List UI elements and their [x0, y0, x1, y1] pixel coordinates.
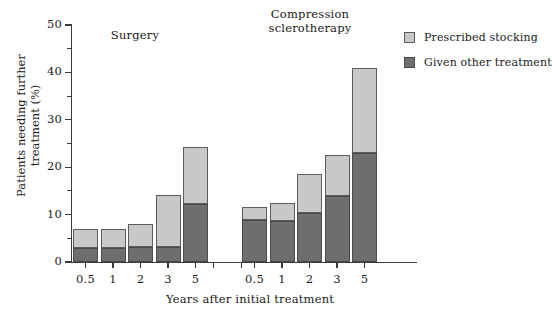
bar-segment-given-other-treatment — [352, 153, 377, 262]
legend-swatch-icon-light — [404, 32, 415, 43]
bar-segment-prescribed-stocking — [101, 229, 126, 248]
x-axis-title: Years after initial treatment — [120, 292, 380, 306]
y-axis-title: Patients needing further treatment (%) — [15, 36, 42, 216]
bar-compression-3y — [325, 155, 350, 262]
legend-label-given-other-treatment: Given other treatment — [424, 56, 552, 69]
x-tick — [241, 262, 242, 268]
bar-segment-prescribed-stocking — [183, 147, 208, 204]
x-tick — [167, 262, 168, 268]
legend-label-prescribed-stocking: Prescribed stocking — [424, 31, 538, 44]
bar-segment-prescribed-stocking — [270, 203, 295, 221]
y-tick-major — [65, 72, 72, 73]
bar-segment-given-other-treatment — [73, 248, 98, 262]
bar-segment-prescribed-stocking — [128, 224, 153, 247]
x-tick — [112, 262, 113, 268]
x-tick-label: 2 — [306, 272, 314, 286]
legend-item-given-other-treatment: Given other treatment — [404, 56, 552, 69]
bar-segment-given-other-treatment — [183, 204, 208, 262]
x-axis-line — [71, 262, 417, 263]
x-tick — [85, 262, 86, 268]
chart-legend: Prescribed stocking Given other treatmen… — [404, 31, 552, 81]
bar-segment-prescribed-stocking — [297, 174, 322, 213]
x-tick-label: 2 — [137, 272, 145, 286]
x-tick-label: 0.5 — [76, 272, 95, 286]
group-caption-surgery: Surgery — [75, 29, 195, 43]
bar-segment-prescribed-stocking — [352, 68, 377, 153]
x-tick — [281, 262, 282, 268]
bar-segment-prescribed-stocking — [156, 195, 181, 247]
bar-segment-prescribed-stocking — [73, 229, 98, 248]
x-tick — [364, 262, 365, 268]
x-tick-label: 5 — [192, 272, 200, 286]
bar-segment-given-other-treatment — [297, 213, 322, 262]
x-tick-label: 1 — [278, 272, 286, 286]
y-tick-major — [65, 261, 72, 262]
x-tick-label: 1 — [109, 272, 117, 286]
x-tick — [213, 262, 214, 268]
bar-surgery-0.5y — [73, 229, 98, 262]
bar-surgery-3y — [156, 195, 181, 262]
y-tick-label: 0 — [22, 256, 62, 268]
y-tick-major — [65, 24, 72, 25]
y-tick-minor — [67, 48, 72, 49]
y-tick-major — [65, 214, 72, 215]
bar-segment-given-other-treatment — [325, 196, 350, 262]
y-tick-major — [65, 167, 72, 168]
legend-swatch-icon-dark — [404, 57, 415, 68]
bar-surgery-1y — [101, 229, 126, 262]
bar-segment-given-other-treatment — [101, 248, 126, 262]
x-tick-label: 3 — [164, 272, 172, 286]
x-tick — [309, 262, 310, 268]
bar-surgery-2y — [128, 224, 153, 262]
bar-segment-prescribed-stocking — [325, 155, 350, 196]
x-tick — [195, 262, 196, 268]
x-tick-label: 0.5 — [245, 272, 264, 286]
bar-compression-2y — [297, 174, 322, 262]
y-tick-major — [65, 119, 72, 120]
x-tick-label: 5 — [361, 272, 369, 286]
x-tick — [140, 262, 141, 268]
bar-segment-given-other-treatment — [242, 220, 267, 262]
x-tick-label: 3 — [333, 272, 341, 286]
bar-compression-0.5y — [242, 207, 267, 262]
y-tick-minor — [67, 143, 72, 144]
bar-segment-prescribed-stocking — [242, 207, 267, 220]
bar-segment-given-other-treatment — [156, 247, 181, 262]
group-caption-compression: Compression sclerotherapy — [245, 8, 375, 35]
x-tick — [336, 262, 337, 268]
bar-surgery-5y — [183, 147, 208, 262]
y-tick-minor — [67, 238, 72, 239]
bar-segment-given-other-treatment — [128, 247, 153, 262]
y-tick-label: 50 — [22, 19, 62, 31]
legend-item-prescribed-stocking: Prescribed stocking — [404, 31, 552, 44]
x-tick — [254, 262, 255, 268]
bar-compression-1y — [270, 203, 295, 262]
y-tick-minor — [67, 190, 72, 191]
bar-segment-given-other-treatment — [270, 221, 295, 262]
bar-compression-5y — [352, 68, 377, 262]
y-tick-minor — [67, 96, 72, 97]
